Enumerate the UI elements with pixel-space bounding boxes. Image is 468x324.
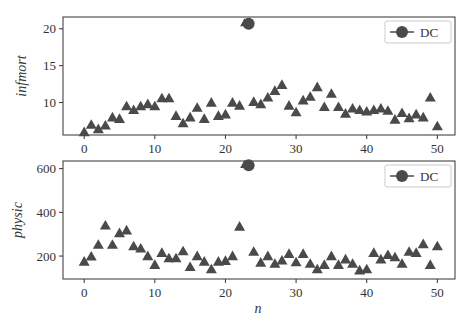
x-tick-label: 0 (81, 285, 88, 300)
x-tick-label: 20 (219, 141, 232, 156)
dc-circle-marker (243, 159, 255, 171)
legend-circle-icon (396, 170, 408, 182)
x-axis-label: n (255, 301, 262, 316)
y-tick-label: 15 (43, 58, 56, 73)
y-axis-label: infmort (14, 54, 29, 96)
x-tick-label: 50 (431, 285, 444, 300)
x-tick-label: 0 (81, 141, 88, 156)
y-tick-label: 600 (37, 161, 57, 176)
x-tick-label: 30 (290, 285, 303, 300)
y-tick-label: 200 (37, 249, 57, 264)
legend: DC (385, 21, 451, 43)
dc-circle-marker (243, 18, 255, 30)
x-tick-label: 10 (148, 285, 161, 300)
x-tick-label: 10 (148, 141, 161, 156)
x-axis-ticks: 01020304050 (81, 135, 444, 156)
legend-circle-icon (396, 26, 408, 38)
y-tick-label: 20 (43, 21, 56, 36)
x-tick-label: 50 (431, 141, 444, 156)
legend: DC (385, 165, 451, 187)
y-axis-ticks: 101520 (43, 21, 63, 110)
y-axis-label: physic (10, 201, 25, 239)
legend-label: DC (420, 25, 438, 40)
infmort-panel: 101520 01020304050 infmort DC (14, 17, 455, 156)
x-tick-label: 30 (290, 141, 303, 156)
x-tick-label: 20 (219, 285, 232, 300)
y-axis-ticks: 200400600 (37, 161, 64, 263)
legend-label: DC (420, 169, 438, 184)
x-tick-label: 40 (360, 141, 373, 156)
physic-panel: 200400600 01020304050 physic n DC (10, 159, 455, 316)
y-tick-label: 10 (43, 95, 56, 110)
x-axis-ticks: 01020304050 (81, 279, 444, 300)
chart-canvas: 101520 01020304050 infmort DC 200400600 … (0, 0, 468, 324)
x-tick-label: 40 (360, 285, 373, 300)
y-tick-label: 400 (37, 205, 57, 220)
